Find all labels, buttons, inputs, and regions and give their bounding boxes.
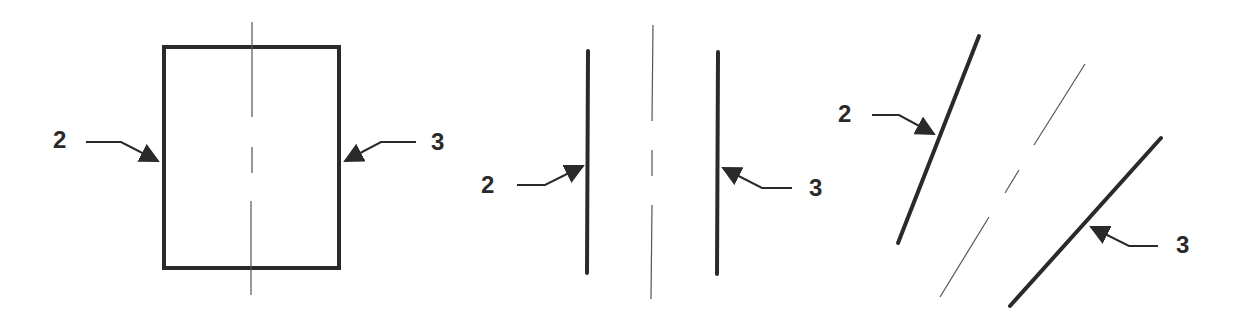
centerline — [651, 25, 653, 299]
diagram-canvas: 2 3 2 3 2 — [0, 0, 1239, 321]
line-2 — [587, 51, 588, 273]
label-3: 3 — [809, 174, 822, 201]
label-3: 3 — [1176, 231, 1189, 258]
leader-arrow-2 — [517, 166, 583, 185]
label-2: 2 — [481, 171, 494, 198]
leader-arrow-3 — [723, 168, 792, 188]
centerline — [251, 22, 252, 295]
leader-arrow-3 — [345, 142, 416, 161]
label-2: 2 — [838, 100, 851, 127]
leader-arrow-2 — [872, 115, 934, 134]
leader-arrow-2 — [86, 142, 158, 161]
leader-arrow-3 — [1091, 227, 1158, 246]
line-3 — [717, 52, 718, 274]
label-2: 2 — [53, 126, 66, 153]
line-3 — [1010, 138, 1161, 306]
line-2 — [898, 36, 979, 243]
rectangle-figure: 2 3 — [53, 22, 444, 295]
centerline — [940, 64, 1085, 297]
inclined-lines-figure: 2 3 — [838, 36, 1189, 306]
label-3: 3 — [431, 128, 444, 155]
parallel-lines-figure: 2 3 — [481, 25, 822, 299]
